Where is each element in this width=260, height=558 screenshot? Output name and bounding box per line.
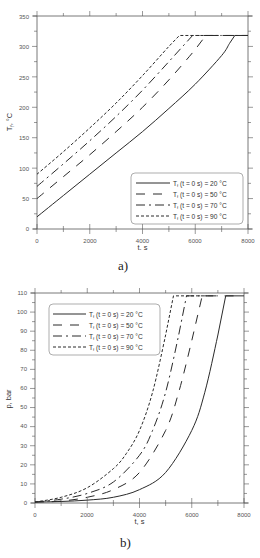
xtick-label: 0: [35, 238, 39, 244]
chart-b-legend: Tf (t = 0 s) = 20 °C Tf (t = 0 s) = 50 °…: [49, 304, 160, 355]
xtick-label: 8000: [241, 238, 255, 244]
xtick-label: 8000: [237, 512, 251, 518]
ytick-label: 150: [19, 135, 30, 141]
ytick-label: 100: [19, 166, 30, 172]
xtick-label: 2000: [80, 512, 94, 518]
chart-b-ytick-labels: 0 10 20 30 40 50 60 70 80 90 100 110: [17, 290, 28, 506]
ytick-label: 50: [22, 196, 29, 202]
chart-b-pressure: 0 10 20 30 40 50 60 70 80 90 100 110 0 2…: [0, 285, 260, 525]
xtick-label: 6000: [188, 238, 202, 244]
ytick-label: 250: [19, 75, 30, 81]
chart-a-ylabel: Tf, °C: [5, 112, 15, 131]
chart-a-xlabel: t, s: [137, 243, 147, 250]
chart-a-caption: a): [118, 258, 128, 274]
chart-b-xlabel: t, s: [134, 517, 144, 525]
ytick-label: 0: [24, 500, 28, 506]
ytick-label: 0: [26, 226, 30, 232]
ytick-label: 50: [20, 404, 27, 410]
ytick-label: 200: [19, 105, 30, 111]
ytick-label: 110: [17, 290, 27, 296]
ytick-label: 20: [20, 462, 27, 468]
chart-b-ylabel: p, bar: [4, 389, 13, 409]
xtick-label: 2000: [83, 238, 97, 244]
chart-a-ytick-labels: 0 50 100 150 200 250 300 350: [19, 14, 30, 232]
curve-short-dash: [37, 35, 222, 174]
ytick-label: 300: [19, 44, 30, 50]
ytick-label: 10: [20, 481, 27, 487]
ytick-label: 70: [20, 366, 27, 372]
ytick-label: 90: [20, 328, 27, 334]
xtick-label: 0: [33, 512, 37, 518]
ytick-label: 60: [20, 385, 27, 391]
curve-dash-dot: [37, 35, 248, 186]
ytick-label: 40: [20, 423, 27, 429]
chart-a-temperature: 0 50 100 150 200 250 300 350 0 2000 4000…: [0, 0, 260, 250]
ytick-label: 350: [19, 14, 30, 20]
xtick-label: 6000: [185, 512, 199, 518]
ytick-label: 30: [20, 443, 27, 449]
ytick-label: 100: [17, 309, 28, 315]
ytick-label: 80: [20, 347, 27, 353]
chart-a-legend: Tf (t = 0 s) = 20 °C Tf (t = 0 s) = 50 °…: [131, 173, 243, 224]
chart-b-caption: b): [120, 535, 131, 551]
